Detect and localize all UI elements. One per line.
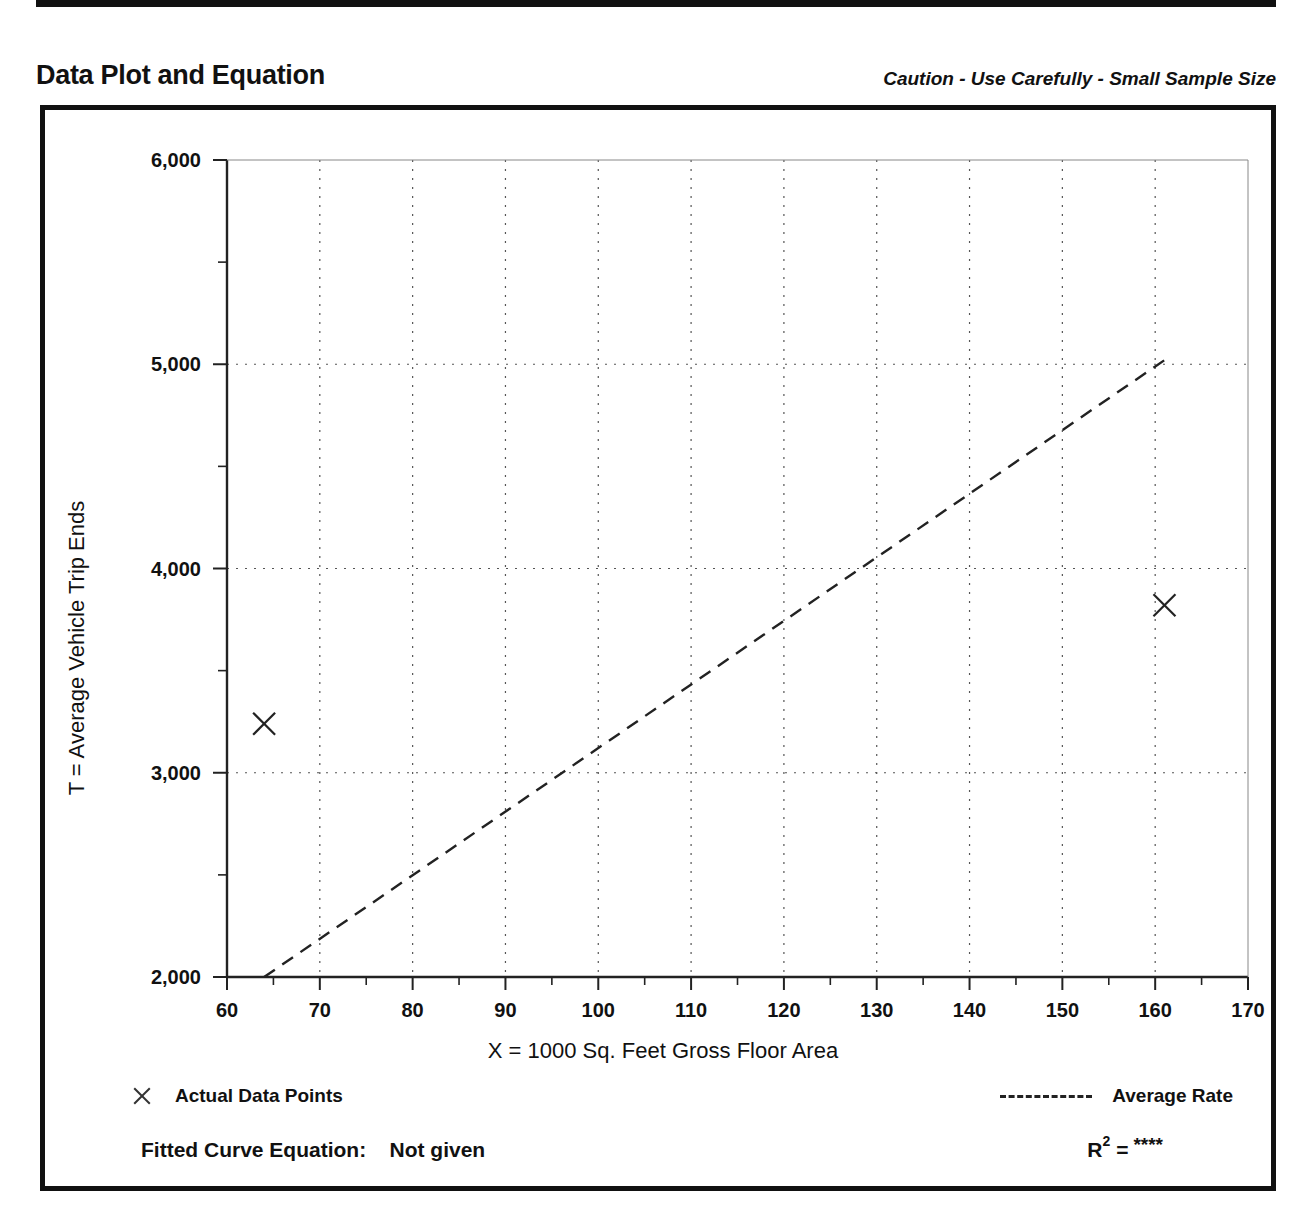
page-top-rule xyxy=(36,0,1276,7)
legend-item-average-rate: Average Rate xyxy=(1000,1085,1233,1107)
fitted-curve-equation: Fitted Curve Equation: Not given xyxy=(141,1138,485,1162)
x-tick-label: 90 xyxy=(494,999,516,1022)
data-point-marker xyxy=(1153,594,1175,616)
x-tick-label: 150 xyxy=(1046,999,1079,1022)
y-tick-label: 5,000 xyxy=(105,353,201,376)
data-point-marker xyxy=(253,713,275,735)
x-tick-label: 70 xyxy=(309,999,331,1022)
average-rate-trend-line xyxy=(264,360,1164,977)
x-tick-label: 80 xyxy=(402,999,424,1022)
y-tick-label: 4,000 xyxy=(105,557,201,580)
chart-canvas xyxy=(45,110,1281,1040)
x-tick-label: 170 xyxy=(1231,999,1264,1022)
caution-note: Caution - Use Carefully - Small Sample S… xyxy=(883,68,1276,90)
x-tick-label: 120 xyxy=(767,999,800,1022)
fitted-curve-label: Fitted Curve Equation: xyxy=(141,1138,366,1161)
x-tick-label: 110 xyxy=(675,999,707,1022)
r-exponent: 2 xyxy=(1103,1133,1111,1149)
r-squared-value: R2 = **** xyxy=(1087,1138,1163,1162)
r-symbol: R xyxy=(1087,1138,1102,1162)
legend-item-data-points: Actual Data Points xyxy=(131,1085,343,1107)
r-equals-sign: = xyxy=(1116,1138,1128,1162)
plot-area: T = Average Vehicle Trip Ends X = 1000 S… xyxy=(45,110,1281,1196)
chart-legend: Actual Data Points Average Rate xyxy=(45,1085,1281,1131)
chart-page: Data Plot and Equation Caution - Use Car… xyxy=(0,0,1314,1219)
x-axis-title: X = 1000 Sq. Feet Gross Floor Area xyxy=(45,1038,1281,1064)
y-tick-label: 6,000 xyxy=(105,149,201,172)
x-marker-icon xyxy=(131,1085,153,1107)
fitted-curve-value: Not given xyxy=(390,1138,486,1161)
x-tick-label: 100 xyxy=(582,999,615,1022)
r-squared-stars: **** xyxy=(1133,1134,1163,1156)
x-tick-label: 160 xyxy=(1138,999,1171,1022)
chart-panel: T = Average Vehicle Trip Ends X = 1000 S… xyxy=(40,105,1276,1191)
y-tick-label: 2,000 xyxy=(105,966,201,989)
x-tick-label: 60 xyxy=(216,999,238,1022)
equation-row: Fitted Curve Equation: Not given R2 = **… xyxy=(45,1138,1281,1188)
legend-label-average-rate: Average Rate xyxy=(1112,1085,1233,1107)
y-axis-title: T = Average Vehicle Trip Ends xyxy=(64,298,90,998)
dashed-line-icon xyxy=(1000,1095,1092,1098)
legend-label-data-points: Actual Data Points xyxy=(175,1085,343,1107)
y-tick-label: 3,000 xyxy=(105,761,201,784)
x-tick-label: 140 xyxy=(953,999,986,1022)
page-title: Data Plot and Equation xyxy=(36,60,325,91)
x-tick-label: 130 xyxy=(860,999,893,1022)
